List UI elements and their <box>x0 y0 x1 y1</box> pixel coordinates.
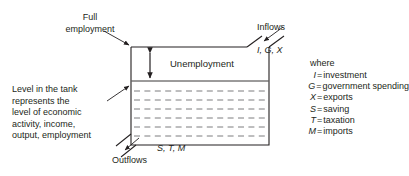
legend-equals: = <box>316 92 323 103</box>
legend-equals: = <box>316 115 323 126</box>
diagram-canvas: Full employment Inflows I, G, X Unemploy… <box>0 0 409 176</box>
legend-list: I = investment G = government spending X… <box>305 70 409 137</box>
inflows-variables: I, G, X <box>257 45 283 55</box>
legend-symbol: S <box>305 104 316 115</box>
legend-definition: exports <box>323 92 353 103</box>
legend-definition: investment <box>323 70 367 81</box>
inflows-label: Inflows I, G, X <box>247 10 317 68</box>
legend-symbol: I <box>305 70 316 81</box>
tank-title-unemployment: Unemployment <box>170 58 234 70</box>
legend-item: M = imports <box>305 126 409 137</box>
full-employment-label: Full employment <box>55 12 125 35</box>
legend-item: X = exports <box>305 92 409 103</box>
outflows-title: Outflows <box>112 155 147 167</box>
legend-equals: = <box>316 126 323 137</box>
legend-definition: taxation <box>323 115 355 126</box>
water-level-dashes <box>134 91 266 136</box>
legend-equals: = <box>316 70 323 81</box>
legend-definition: government spending <box>322 81 409 92</box>
legend-definition: saving <box>323 104 349 115</box>
legend-item: T = taxation <box>305 115 409 126</box>
legend-equals: = <box>315 81 322 92</box>
legend-equals: = <box>316 104 323 115</box>
level-description-label: Level in the tank represents the level o… <box>12 84 124 142</box>
legend-heading: where <box>310 58 335 70</box>
outflows-variables: S, T, M <box>157 143 185 155</box>
legend-symbol: G <box>305 81 315 92</box>
legend-symbol: X <box>305 92 316 103</box>
legend-definition: imports <box>323 126 353 137</box>
legend-symbol: T <box>305 115 316 126</box>
legend-item: I = investment <box>305 70 409 81</box>
legend-symbol: M <box>305 126 316 137</box>
legend-item: S = saving <box>305 104 409 115</box>
legend-item: G = government spending <box>305 81 409 92</box>
inflows-title: Inflows <box>257 22 285 32</box>
